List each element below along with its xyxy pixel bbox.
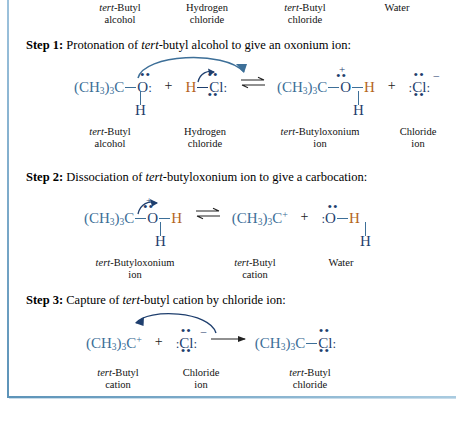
- species-chloride-ion: :Cl: •• •• –: [409, 79, 430, 95]
- equilibrium-arrow: [194, 207, 220, 219]
- atom-hydrogen: H: [349, 210, 360, 226]
- lone-pair-dots: ••: [414, 93, 425, 97]
- step-2-heading: Step 2: Dissociation of tert-butyloxoniu…: [26, 170, 367, 184]
- step-2-label-cation: tert-Butyl cation: [234, 257, 275, 280]
- step-3-label-cation: tert-Butyl cation: [97, 367, 138, 390]
- mechanism-figure: tert-Butyl alcohol Hydrogen chloride ter…: [0, 0, 456, 426]
- step-1-heading: Step 1: Protonation of tert-butyl alcoho…: [26, 38, 351, 52]
- step-1-label-oxonium: tert-Butyloxonium ion: [281, 126, 360, 149]
- step-1-label-alcohol: tert-Butyl alcohol: [89, 126, 130, 149]
- curved-arrow-step1-hcl: [195, 67, 221, 87]
- atom-hydrogen-lower: H: [353, 102, 364, 119]
- overall-label-water: Water: [385, 2, 410, 14]
- step-2-label-oxonium: tert-Butyloxonium ion: [96, 257, 175, 280]
- charge-positive: +: [339, 63, 345, 75]
- species-tert-butyl-chloride: (CH3)3CCl: •• ••: [255, 335, 336, 351]
- charge-negative: –: [434, 69, 440, 81]
- operator-plus: +: [292, 209, 318, 224]
- lone-pair-dots: ••: [181, 349, 192, 353]
- step-1-label-chloride: Chloride ion: [400, 126, 437, 149]
- lone-pair-dots: ••: [414, 73, 425, 77]
- lone-pair-dots: ••: [319, 329, 330, 333]
- atom-hydrogen-lower: H: [155, 233, 166, 250]
- step-3-heading: Step 3: Capture of tert-butyl cation by …: [26, 293, 286, 307]
- step-1-equation: (CH3)3CO: •• + HCl: •• •• (CH3)3COH •• +…: [74, 76, 430, 96]
- step-3-label-chloride: Chloride ion: [183, 367, 220, 390]
- species-tert-butyloxonium-ion: (CH3)3COH •• +: [84, 210, 186, 226]
- species-tert-butyl-cation: (CH3)3C+: [232, 210, 292, 226]
- atom-hydrogen: H: [171, 210, 182, 226]
- curved-arrow-step2: [136, 197, 166, 219]
- step-3-equation: (CH3)3C+ + :Cl: •• •• – (CH3)3CCl: •• ••: [86, 331, 336, 352]
- curved-arrow-step3: [130, 309, 226, 337]
- atom-hydrogen: H: [364, 79, 375, 95]
- step-1-label-hydrogen-chloride: Hydrogen chloride: [184, 126, 226, 149]
- overall-label-tert-butyl-alcohol: tert-Butyl alcohol: [99, 2, 140, 25]
- step-2-equation: (CH3)3COH •• + (CH3)3C+ + :OH •• H H: [84, 207, 360, 227]
- species-tert-butyloxonium-ion: (CH3)3COH •• +: [277, 79, 379, 95]
- species-chloride-ion: :Cl: •• •• –: [176, 335, 201, 351]
- step-3-label-tert-butyl-chloride: tert-Butyl chloride: [289, 367, 330, 390]
- overall-label-hydrogen-chloride: Hydrogen chloride: [186, 2, 228, 25]
- step-2-label-water: Water: [329, 257, 354, 269]
- operator-plus: +: [379, 78, 405, 93]
- lone-pair-dots: ••: [207, 93, 218, 97]
- atom-hydrogen-lower: H: [135, 102, 146, 119]
- overall-label-tert-butyl-chloride: tert-Butyl chloride: [284, 2, 325, 25]
- charge-positive: +: [282, 209, 288, 220]
- species-tert-butyl-cation: (CH3)3C+: [86, 335, 146, 351]
- species-water: :OH ••: [321, 210, 359, 226]
- lone-pair-dots: ••: [327, 205, 338, 209]
- atom-hydrogen-lower: H: [360, 233, 371, 250]
- lone-pair-dots: ••: [319, 349, 330, 353]
